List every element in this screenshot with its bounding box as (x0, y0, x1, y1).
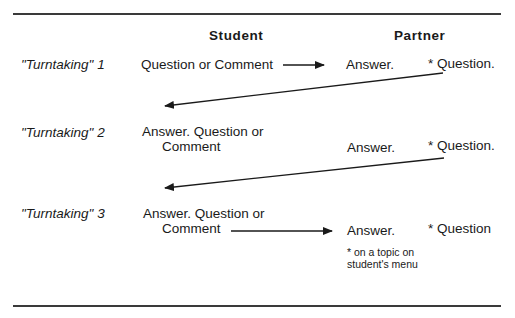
arrow-left-2 (165, 158, 444, 188)
arrows-layer (0, 0, 515, 318)
arrow-left-1 (165, 73, 443, 106)
